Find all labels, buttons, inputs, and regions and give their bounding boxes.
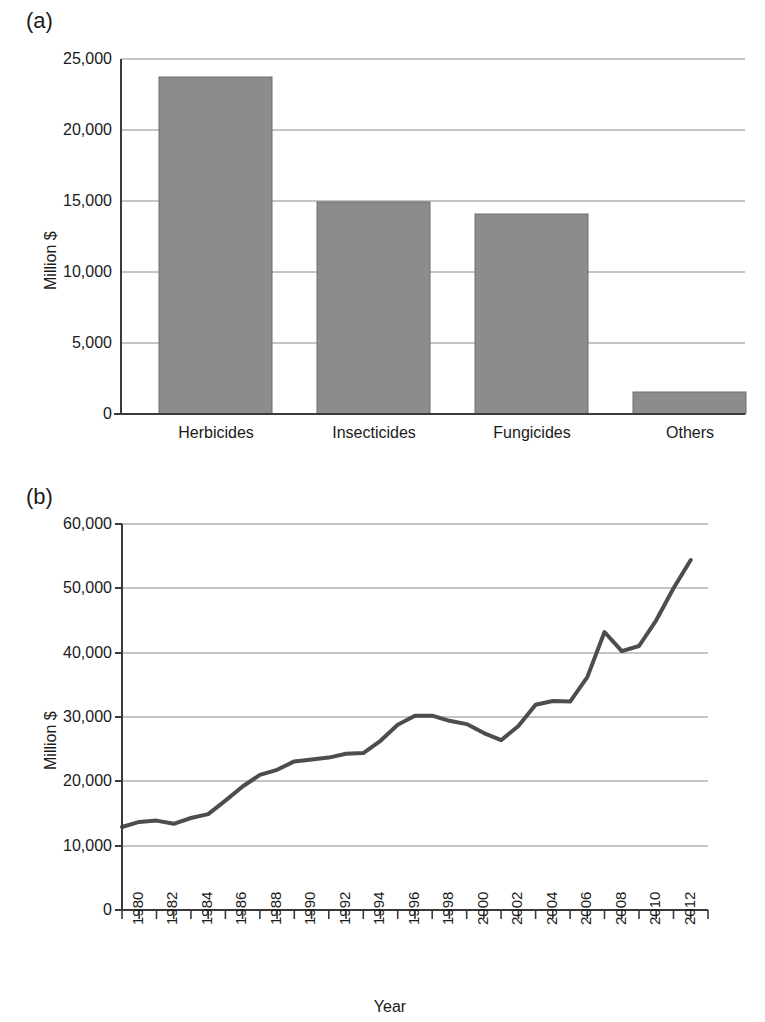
x-tick-label-insecticides: Insecticides (298, 424, 450, 442)
x-tick-label-b-1990: 1990 (301, 892, 318, 925)
bar-herbicides (159, 77, 272, 414)
x-tick-label-b-1996: 1996 (405, 892, 422, 925)
x-tick-label-b-2010: 2010 (646, 892, 663, 925)
bar-plot-area (0, 0, 765, 470)
x-tick-label-b-1998: 1998 (439, 892, 456, 925)
x-tick-label-b-1982: 1982 (163, 892, 180, 925)
line-plot-area (0, 470, 765, 1022)
x-tick-label-b-1980: 1980 (129, 892, 146, 925)
bar-others (633, 392, 746, 414)
bar-fungicides (475, 214, 588, 414)
bar-insecticides (317, 202, 430, 414)
x-tick-label-herbicides: Herbicides (140, 424, 292, 442)
x-axis-title-b: Year (330, 998, 450, 1016)
x-tick-label-b-1986: 1986 (232, 892, 249, 925)
x-tick-label-b-2002: 2002 (508, 892, 525, 925)
x-tick-label-b-1984: 1984 (198, 892, 215, 925)
x-tick-label-b-2006: 2006 (577, 892, 594, 925)
figure-b-line-chart: (b) Million $ 0 10,000 20,000 30,000 40,… (0, 470, 765, 1022)
data-line-pesticide-sales (122, 560, 691, 827)
x-tick-label-fungicides: Fungicides (456, 424, 608, 442)
x-tick-label-b-2012: 2012 (681, 892, 698, 925)
x-tick-label-b-2004: 2004 (543, 892, 560, 925)
x-tick-label-b-1992: 1992 (336, 892, 353, 925)
x-tick-label-b-2000: 2000 (474, 892, 491, 925)
x-tick-label-b-2008: 2008 (612, 892, 629, 925)
figure-a-bar-chart: (a) Million $ 0 5,000 10,000 15,000 20,0… (0, 0, 765, 470)
x-tick-label-b-1988: 1988 (267, 892, 284, 925)
x-tick-label-others: Others (614, 424, 765, 442)
x-tick-label-b-1994: 1994 (370, 892, 387, 925)
